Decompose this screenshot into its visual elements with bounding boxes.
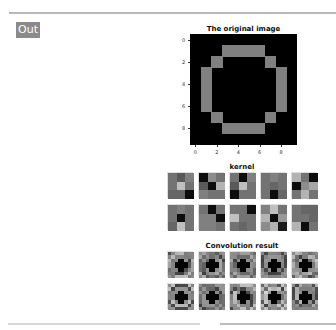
image-pixel [254, 123, 265, 135]
image-pixel [201, 101, 212, 113]
x-tick-mark [195, 145, 196, 147]
x-tick-label: 4 [237, 149, 240, 155]
kernel-panel-pixel [278, 190, 287, 199]
y-tick-mark [188, 128, 190, 129]
convolution-panel-pixel [284, 307, 288, 311]
y-tick-label: 4 [182, 81, 185, 87]
convolution-panel-pixel [315, 307, 319, 311]
x-tick-label: 6 [258, 149, 261, 155]
convolution-panel-pixel [222, 275, 226, 279]
image-pixel [201, 90, 212, 102]
output-prompt-label: Out [16, 22, 40, 38]
convolution-panel-pixel [222, 307, 226, 311]
image-pixel [276, 101, 287, 113]
y-tick-label: 2 [182, 59, 185, 65]
kernel-panel-pixel [247, 190, 256, 199]
convolution-panel [260, 251, 286, 277]
cell-divider-top [9, 12, 336, 14]
image-pixel [222, 45, 233, 57]
image-pixel [233, 45, 244, 57]
x-tick-mark [238, 145, 239, 147]
convolution-panel [260, 283, 286, 309]
original-image-plot [190, 34, 297, 145]
image-pixel [276, 67, 287, 79]
image-pixel [276, 78, 287, 90]
kernel-panel-pixel [185, 222, 194, 231]
kernel-panel-pixel [278, 222, 287, 231]
image-pixel [211, 112, 222, 124]
image-pixel [244, 45, 255, 57]
x-tick-mark [260, 145, 261, 147]
y-tick-label: 8 [182, 125, 185, 131]
convolution-panel-pixel [315, 275, 319, 279]
convolution-panel-pixel [191, 275, 195, 279]
convolution-panel-pixel [191, 307, 195, 311]
convolution-panel [291, 251, 317, 277]
kernel-panel [229, 172, 255, 198]
convolution-panel-pixel [253, 275, 257, 279]
kernel-title: kernel [167, 163, 317, 171]
image-pixel [244, 123, 255, 135]
kernel-panel [260, 204, 286, 230]
convolution-panel [167, 283, 193, 309]
image-pixel [265, 56, 276, 68]
convolution-panel [291, 283, 317, 309]
kernel-panel-pixel [216, 222, 225, 231]
y-tick-mark [188, 62, 190, 63]
x-tick-mark [217, 145, 218, 147]
y-tick-mark [188, 40, 190, 41]
convolution-title: Convolution result [167, 242, 317, 250]
image-pixel [254, 45, 265, 57]
kernel-panel-pixel [247, 222, 256, 231]
kernel-panel [291, 204, 317, 230]
y-tick-mark [188, 84, 190, 85]
kernel-panel-pixel [185, 190, 194, 199]
kernel-panel [260, 172, 286, 198]
x-tick-label: 2 [215, 149, 218, 155]
cell-divider-bottom [8, 323, 200, 325]
convolution-panel-pixel [253, 307, 257, 311]
original-image-title: The original image [190, 25, 297, 33]
image-pixel [211, 56, 222, 68]
kernel-panel [198, 172, 224, 198]
y-tick-label: 6 [182, 103, 185, 109]
image-pixel [201, 67, 212, 79]
convolution-panel [229, 251, 255, 277]
x-tick-label: 8 [279, 149, 282, 155]
convolution-panel [198, 283, 224, 309]
convolution-panel-pixel [284, 275, 288, 279]
kernel-panel [291, 172, 317, 198]
kernel-panel-pixel [309, 222, 318, 231]
kernel-panel-pixel [309, 190, 318, 199]
kernel-panel [167, 204, 193, 230]
convolution-panel [198, 251, 224, 277]
kernel-panel [229, 204, 255, 230]
convolution-panel [167, 251, 193, 277]
scrollbar-track[interactable] [220, 323, 336, 325]
x-tick-label: 0 [194, 149, 197, 155]
image-pixel [265, 112, 276, 124]
y-tick-mark [188, 106, 190, 107]
convolution-panel [229, 283, 255, 309]
image-pixel [233, 123, 244, 135]
y-tick-label: 0 [182, 37, 185, 43]
kernel-panel-pixel [216, 190, 225, 199]
kernel-panel [167, 172, 193, 198]
image-pixel [276, 90, 287, 102]
image-pixel [201, 78, 212, 90]
x-tick-mark [281, 145, 282, 147]
kernel-panel [198, 204, 224, 230]
image-pixel [222, 123, 233, 135]
